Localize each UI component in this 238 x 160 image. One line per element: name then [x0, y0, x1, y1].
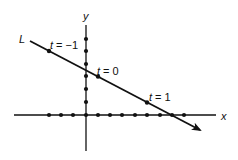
- label-t-0: t = 0: [97, 65, 119, 77]
- diagram-canvas: L y x t = −1 t = 0 t = 1: [0, 0, 238, 160]
- y-axis-label: y: [82, 10, 90, 22]
- line-label-L: L: [19, 33, 25, 45]
- line-L: [30, 41, 200, 130]
- label-t-1: t = 1: [149, 91, 171, 103]
- parametric-line-figure: L y x t = −1 t = 0 t = 1: [0, 0, 238, 160]
- x-axis-label: x: [220, 110, 227, 122]
- label-t-minus-1: t = −1: [50, 39, 78, 51]
